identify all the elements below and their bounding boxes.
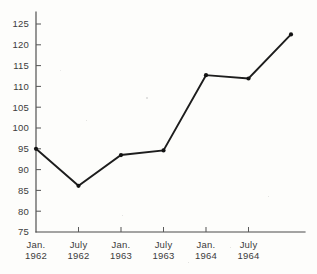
chart-canvas: 7580859095100105110115120125 Jan.1962Jul… [0,0,317,274]
y-tick-label-80: 80 [18,206,29,217]
x-tick-label-year-1: 1962 [68,250,90,261]
x-tick-label-year-4: 1964 [195,250,217,261]
x-tick-label-year-5: 1964 [238,250,260,261]
x-tick-label-month-5: July [240,239,258,250]
data-point-1 [76,184,80,188]
y-tick-label-105: 105 [13,102,29,113]
data-markers-series-1 [34,32,293,188]
y-tick-label-75: 75 [18,226,29,237]
line-chart: 7580859095100105110115120125 Jan.1962Jul… [0,0,317,274]
y-tick-label-125: 125 [13,18,29,29]
data-point-3 [161,148,165,152]
y-tick-label-85: 85 [18,185,29,196]
x-tick-label-month-2: Jan. [112,239,131,250]
data-point-4 [204,73,208,77]
y-tick-label-110: 110 [13,81,29,92]
y-tick-label-90: 90 [18,164,29,175]
x-tick-label-year-3: 1963 [153,250,175,261]
x-tick-label-month-3: July [155,239,173,250]
x-tick-label-year-2: 1963 [110,250,132,261]
data-point-2 [119,153,123,157]
x-tick-label-month-4: Jan. [197,239,216,250]
y-axis-tick-labels: 7580859095100105110115120125 [13,18,29,237]
x-tick-label-year-0: 1962 [25,250,47,261]
data-point-5 [246,76,250,80]
data-series-group [34,32,293,188]
data-line-series-1 [36,34,291,185]
y-tick-label-115: 115 [13,60,29,71]
x-tick-label-month-1: July [70,239,88,250]
y-axis-ticks [36,24,41,211]
data-point-0 [34,147,38,151]
data-point-6 [289,32,293,36]
x-axis-ticks [79,227,249,232]
x-axis-tick-labels: Jan.1962July1962Jan.1963July1963Jan.1964… [25,239,259,261]
y-tick-label-95: 95 [18,143,29,154]
y-tick-label-100: 100 [13,122,29,133]
x-tick-label-month-0: Jan. [27,239,46,250]
y-tick-label-120: 120 [13,39,29,50]
